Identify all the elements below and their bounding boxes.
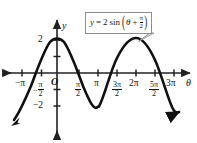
y-tick-label-2: 2	[38, 35, 43, 45]
x-tick-fraction: 5π2	[149, 81, 159, 98]
x-tick-fraction: 3π2	[112, 81, 122, 98]
x-tick-fraction-denominator: 2	[75, 89, 81, 98]
x-tick-fraction-numerator: π	[38, 81, 44, 89]
equation-function: sin	[110, 17, 121, 27]
x-tick-fraction-denominator: 2	[112, 89, 122, 98]
origin-label: O	[51, 77, 58, 87]
x-tick-label-2pi: 2π	[129, 79, 139, 89]
equation-coefficient: 2	[103, 17, 108, 27]
x-tick-fraction-denominator: 2	[149, 89, 159, 98]
x-tick-fraction: π2	[75, 81, 81, 98]
equation-fraction-denominator: 2	[140, 22, 144, 30]
x-tick-fraction: π2	[38, 81, 44, 98]
x-tick-fraction-numerator: 3π	[112, 81, 122, 89]
x-tick-label-3pi-over-2: 3π2	[112, 80, 122, 98]
x-tick-fraction-numerator: 5π	[149, 81, 159, 89]
x-axis-label: θ	[186, 78, 191, 88]
x-tick-fraction-denominator: 2	[38, 89, 44, 98]
x-tick-label-3pi: 3π	[166, 79, 176, 89]
graph-figure: y=2sin(θ+π2) y θ O 2 −2 −π −π2 π2 π 3π2 …	[0, 0, 197, 143]
x-tick-label-pi-over-2: π2	[75, 80, 81, 98]
equation-equals: =	[96, 17, 101, 27]
equation-plus: +	[133, 17, 138, 27]
x-tick-label-minus-pi-over-2: −π2	[33, 80, 44, 98]
x-tick-label-5pi-over-2: 5π2	[149, 80, 159, 98]
equation-fraction-numerator: π	[140, 15, 144, 22]
equation-open-paren: (	[122, 13, 125, 31]
y-axis-label: y	[62, 21, 66, 31]
equation-lhs: y	[90, 17, 94, 27]
x-tick-fraction-numerator: π	[75, 81, 81, 89]
equation-fraction: π2	[140, 15, 144, 30]
equation-variable: θ	[126, 17, 130, 27]
equation-close-paren: )	[144, 13, 147, 31]
x-tick-label-minus-pi: −π	[15, 79, 25, 89]
equation-callout: y=2sin(θ+π2)	[85, 12, 152, 34]
y-tick-label-minus2: −2	[33, 101, 43, 111]
x-tick-label-pi: π	[94, 79, 99, 89]
